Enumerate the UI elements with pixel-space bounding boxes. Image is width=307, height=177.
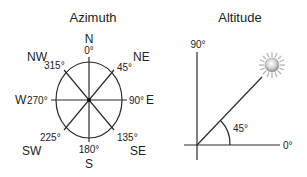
label-sw: SW <box>22 144 42 158</box>
label-ne: NE <box>133 50 150 64</box>
label-e: E <box>146 93 154 107</box>
sun-icon <box>259 52 285 78</box>
degree-e: 90° <box>129 95 144 106</box>
azimuth-panel: Azimuth N 0° NE 45° 90° E 135° SE 180° S… <box>15 10 154 171</box>
altitude-panel: Altitude 90° 0° 45° <box>184 10 293 160</box>
label-n: N <box>85 32 94 46</box>
degree-se: 135° <box>117 132 138 143</box>
altitude-90-label: 90° <box>190 39 205 50</box>
degree-s: 180° <box>79 144 100 155</box>
degree-nw: 315° <box>44 60 65 71</box>
degree-sw: 225° <box>40 132 61 143</box>
altitude-0-label: 0° <box>283 140 293 151</box>
degree-w: 270° <box>27 95 48 106</box>
label-s: S <box>85 157 93 171</box>
label-w: W <box>15 93 27 107</box>
azimuth-altitude-diagram: Azimuth N 0° NE 45° 90° E 135° SE 180° S… <box>0 0 307 177</box>
compass-center-dot <box>87 98 91 102</box>
altitude-angle-label: 45° <box>233 123 248 134</box>
altitude-angle-arc <box>221 121 230 145</box>
azimuth-title: Azimuth <box>70 10 117 25</box>
degree-n: 0° <box>84 45 94 56</box>
label-se: SE <box>130 144 146 158</box>
degree-ne: 45° <box>117 62 132 73</box>
altitude-title: Altitude <box>218 10 261 25</box>
